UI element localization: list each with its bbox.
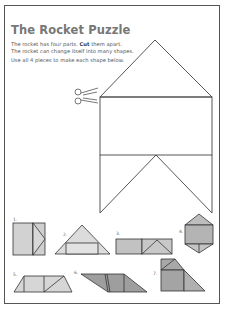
shape-5-label: 5.: [13, 272, 17, 277]
shape-2-label: 2.: [63, 232, 67, 237]
rocket-diagram: [100, 40, 212, 213]
shape-2: [55, 225, 110, 254]
rocket-right-fin: [156, 155, 212, 213]
shape-3-label: 3.: [116, 231, 120, 236]
shape-6-label: 6.: [74, 270, 78, 275]
shape-3: [116, 239, 172, 254]
scissors-icon: [75, 88, 98, 104]
shape-7-label: 7.: [153, 271, 157, 276]
shape-5: [14, 276, 72, 292]
shape-1-label: 1.: [13, 217, 17, 222]
puzzle-drawing: 1. 2. 3. 4. 5. 6. 7.: [0, 0, 228, 313]
rocket-body: [100, 97, 212, 155]
rocket-nose-cone: [100, 40, 212, 97]
shape-7: [161, 259, 205, 291]
rocket-left-fin: [100, 155, 156, 213]
shape-1: [13, 223, 45, 255]
shape-6: [81, 274, 147, 292]
shape-4: [185, 214, 213, 253]
shape-4-label: 4.: [179, 229, 183, 234]
